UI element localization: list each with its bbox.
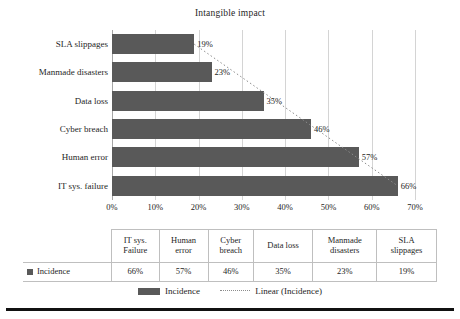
gridline-70 (415, 30, 416, 200)
table-value-cell: 35% (253, 263, 313, 282)
bar (112, 176, 398, 196)
table-header-cell: IT sys.Failure (112, 230, 160, 263)
legend-label-incidence: Incidence (165, 286, 200, 296)
chart-title: Intangible impact (0, 8, 460, 18)
table-row: Incidence 66%57%46%35%23%19% (23, 263, 437, 282)
bar-data-label: 23% (212, 62, 231, 82)
bar (112, 91, 264, 111)
category-label: IT sys. failure (58, 172, 108, 200)
table-value-cell: 19% (377, 263, 437, 282)
bar-row: 66% (112, 172, 415, 200)
x-tick-label: 30% (222, 202, 262, 212)
category-label: Data loss (75, 87, 108, 115)
x-tick-label: 60% (352, 202, 392, 212)
x-tick-label: 10% (135, 202, 175, 212)
table-value-cell: 46% (208, 263, 253, 282)
legend-dotted-line-icon (220, 290, 250, 291)
bar-row: 57% (112, 143, 415, 171)
table-header-cell: Manmadedisasters (313, 230, 377, 263)
incidence-swatch-icon (27, 269, 33, 275)
data-table: IT sys.FailureHumanerrorCyberbreachData … (23, 229, 437, 282)
chart-legend: Incidence Linear (Incidence) (0, 285, 460, 296)
bar-data-label: 57% (359, 147, 378, 167)
legend-item-incidence: Incidence (138, 285, 200, 296)
category-label: SLA slippages (56, 30, 108, 58)
x-tick-label: 40% (265, 202, 305, 212)
x-tick-label: 70% (395, 202, 435, 212)
table-header-row: IT sys.FailureHumanerrorCyberbreachData … (23, 230, 437, 263)
table-series-label: Incidence (37, 266, 70, 276)
category-label: Cyber breach (60, 115, 108, 143)
bar-data-label: 19% (194, 34, 213, 54)
category-label: Human error (62, 143, 108, 171)
bar (112, 147, 359, 167)
table-header-cell: Humanerror (159, 230, 208, 263)
table-series-label-cell: Incidence (23, 263, 112, 282)
table-header-cell: SLAslippages (377, 230, 437, 263)
x-tick-label: 20% (179, 202, 219, 212)
bar-row: 19% (112, 30, 415, 58)
bar-data-label: 66% (398, 176, 417, 196)
category-label: Manmade disasters (39, 58, 108, 86)
bar (112, 119, 311, 139)
table-value-cell: 66% (112, 263, 160, 282)
bar (112, 34, 194, 54)
legend-bar-swatch-icon (138, 288, 160, 295)
chart-figure: Intangible impact SLA slippagesManmade d… (0, 0, 460, 225)
legend-item-linear-incidence: Linear (Incidence) (220, 285, 322, 296)
table-value-cell: 57% (159, 263, 208, 282)
table-header-cell: Cyberbreach (208, 230, 253, 263)
legend-label-linear-incidence: Linear (Incidence) (255, 286, 322, 296)
bar-data-label: 46% (311, 119, 330, 139)
bar-row: 46% (112, 115, 415, 143)
x-tick-label: 50% (308, 202, 348, 212)
plot-area: 19%23%35%46%57%66% (112, 30, 415, 200)
bar (112, 62, 212, 82)
bottom-rule (6, 308, 454, 311)
bar-data-label: 35% (264, 91, 283, 111)
bar-row: 35% (112, 87, 415, 115)
x-tick-label: 0% (92, 202, 132, 212)
bar-row: 23% (112, 58, 415, 86)
table-value-cell: 23% (313, 263, 377, 282)
table-corner-cell (23, 230, 112, 263)
table-header-cell: Data loss (253, 230, 313, 263)
